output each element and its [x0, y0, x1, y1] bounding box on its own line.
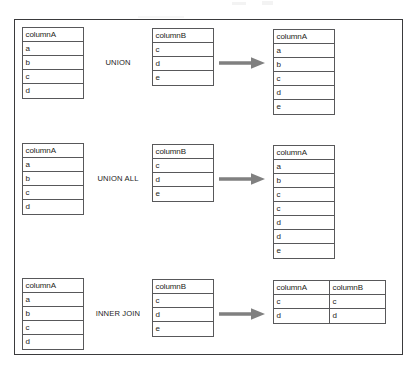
result-table: columnAabcde — [273, 29, 335, 115]
table-header-row: columnA — [274, 146, 334, 160]
table-row: c — [23, 321, 83, 335]
table-row: d — [153, 308, 213, 322]
table-row: d — [274, 230, 334, 244]
table-row: c — [23, 70, 83, 84]
operator-label: UNION — [84, 58, 152, 67]
diagram-frame: columnAabcdcolumnBcdecolumnAabcdeUNIONco… — [14, 19, 403, 355]
table-row: d — [23, 84, 83, 98]
scan-artifact — [262, 1, 273, 5]
table-row: b — [23, 56, 83, 70]
table-cell: c — [274, 188, 334, 201]
table-cell: e — [153, 187, 213, 201]
table-cell: d — [23, 84, 83, 98]
table-cell: d — [274, 230, 334, 243]
table-cell: a — [23, 42, 83, 55]
table-cell: d — [23, 335, 83, 349]
column-header-cell: columnA — [23, 279, 83, 292]
table-cell: d — [153, 308, 213, 321]
scan-artifact — [138, 16, 184, 18]
column-header-cell: columnB — [329, 281, 385, 294]
table-row: d — [153, 57, 213, 71]
table-row: dd — [274, 309, 385, 323]
table-row: c — [274, 72, 334, 86]
column-header-cell: columnB — [153, 29, 213, 42]
table-cell: d — [329, 309, 385, 323]
table-row: d — [153, 173, 213, 187]
column-header-cell: columnA — [23, 28, 83, 41]
table-row: e — [153, 187, 213, 201]
table-row: c — [274, 188, 334, 202]
table-cell: a — [23, 158, 83, 171]
table-row: e — [153, 322, 213, 336]
table-cell: b — [274, 58, 334, 71]
operator-label: UNION ALL — [84, 174, 152, 183]
column-header-cell: columnA — [23, 144, 83, 157]
column-header-cell: columnB — [153, 280, 213, 293]
table-cell: c — [274, 72, 334, 85]
right-input-table: columnBcde — [152, 279, 214, 337]
table-header-row: columnA — [274, 30, 334, 44]
table-row: b — [274, 174, 334, 188]
table-cell: d — [23, 200, 83, 214]
right-arrow-icon — [219, 172, 266, 186]
table-row: d — [274, 216, 334, 230]
table-row: a — [274, 44, 334, 58]
table-cell: b — [23, 307, 83, 320]
column-header-cell: columnA — [274, 146, 334, 159]
table-row: b — [23, 307, 83, 321]
right-input-table: columnBcde — [152, 28, 214, 86]
left-input-table: columnAabcd — [22, 278, 84, 350]
table-row: d — [274, 86, 334, 100]
table-cell: d — [274, 86, 334, 99]
table-cell: d — [153, 173, 213, 186]
table-row: e — [153, 71, 213, 85]
table-header-row: columnB — [153, 29, 213, 43]
table-cell: a — [274, 160, 334, 173]
table-row: e — [274, 244, 334, 258]
operator-label: INNER JOIN — [84, 309, 152, 318]
left-input-table: columnAabcd — [22, 143, 84, 215]
scan-artifact — [232, 2, 246, 5]
right-arrow-icon — [219, 56, 266, 70]
table-row: a — [23, 158, 83, 172]
table-cell: d — [274, 216, 334, 229]
table-header-row: columnA — [23, 279, 83, 293]
table-cell: c — [23, 321, 83, 334]
table-cell: e — [153, 322, 213, 336]
table-row: b — [274, 58, 334, 72]
table-cell: b — [274, 174, 334, 187]
table-cell: c — [274, 295, 329, 308]
table-row: c — [274, 202, 334, 216]
table-cell: b — [23, 172, 83, 185]
table-cell: c — [153, 43, 213, 56]
table-cell: c — [23, 70, 83, 83]
right-arrow-icon — [219, 307, 266, 321]
table-row: c — [153, 43, 213, 57]
table-cell: a — [274, 44, 334, 57]
column-header-cell: columnB — [153, 145, 213, 158]
table-cell: e — [274, 244, 334, 258]
table-row: d — [23, 335, 83, 349]
table-row: a — [274, 160, 334, 174]
table-row: c — [23, 186, 83, 200]
table-header-row: columnB — [153, 280, 213, 294]
table-header-row: columnA — [23, 144, 83, 158]
table-cell: c — [153, 294, 213, 307]
left-input-table: columnAabcd — [22, 27, 84, 99]
table-cell: c — [274, 202, 334, 215]
right-input-table: columnBcde — [152, 144, 214, 202]
table-row: e — [274, 100, 334, 114]
table-header-row: columnB — [153, 145, 213, 159]
table-row: b — [23, 172, 83, 186]
table-header-row: columnAcolumnB — [274, 281, 385, 295]
table-cell: e — [153, 71, 213, 85]
table-cell: c — [153, 159, 213, 172]
table-row: cc — [274, 295, 385, 309]
table-row: a — [23, 42, 83, 56]
result-table: columnAcolumnBccdd — [273, 280, 386, 324]
table-cell: e — [274, 100, 334, 114]
table-header-row: columnA — [23, 28, 83, 42]
table-cell: c — [23, 186, 83, 199]
table-cell: b — [23, 56, 83, 69]
table-row: a — [23, 293, 83, 307]
